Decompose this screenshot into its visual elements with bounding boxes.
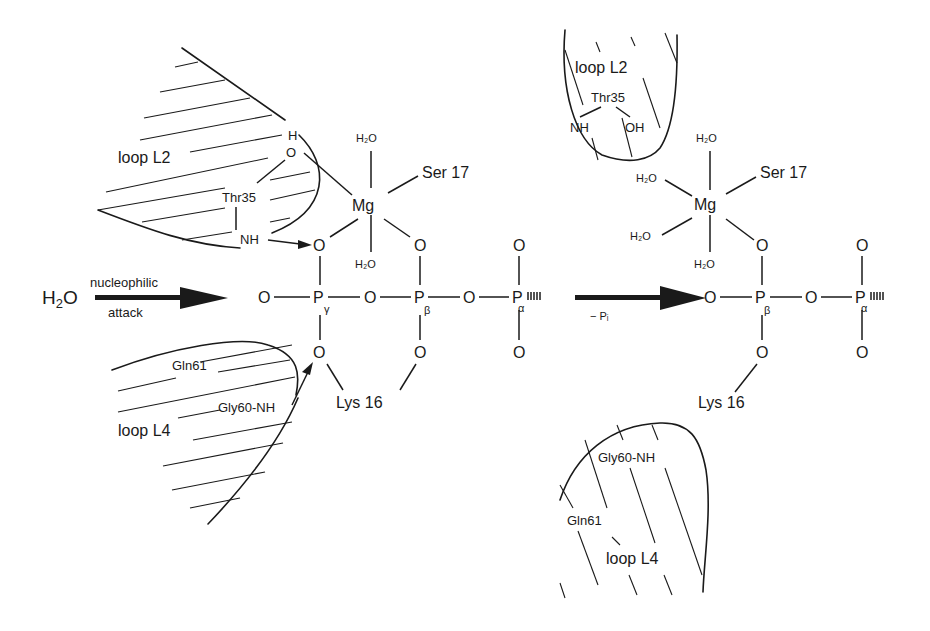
water-nucleophile: H2O	[42, 287, 78, 311]
arrow-label-top: nucleophilic	[90, 275, 158, 290]
right-diphosphate: O O O P β O P α O O Lys 16	[698, 237, 883, 411]
right-gly60-label: Gly60-NH	[598, 450, 655, 465]
right-water-left-bottom: H₂O	[630, 230, 651, 242]
right-o-beta-top: O	[756, 237, 768, 254]
gamma-label: γ	[324, 303, 330, 315]
o-alpha-top: O	[513, 237, 525, 254]
mg-label: Mg	[352, 197, 374, 214]
right-ser17-label: Ser 17	[760, 164, 807, 181]
beta-label: β	[424, 304, 430, 316]
right-thr35-label: Thr35	[591, 90, 625, 105]
p-gamma: P	[313, 289, 324, 306]
right-mg-label: Mg	[694, 196, 716, 213]
thr35-nh: NH	[240, 232, 259, 247]
thr35-h: H	[288, 128, 297, 143]
right-o-bridge: O	[805, 289, 817, 306]
right-mg-complex: H₂O H₂O H₂O H₂O Mg Ser 17	[630, 132, 807, 270]
o-beta-bottom: O	[414, 344, 426, 361]
right-beta-label: β	[764, 304, 770, 316]
right-o-beta-bottom: O	[756, 344, 768, 361]
o-alpha-bottom: O	[513, 344, 525, 361]
left-mg-complex: H₂O Mg Ser 17 H₂O	[304, 132, 469, 270]
thr35-label: Thr35	[222, 190, 256, 205]
right-o-terminal: O	[704, 289, 716, 306]
loop-l2-label: loop L2	[118, 149, 171, 166]
mechanism-diagram: loop L2 H O Thr35 NH H₂O Mg Ser 17 H₂O O…	[0, 0, 930, 631]
right-loop-l4: Gly60-NH Gln61 loop L4	[560, 423, 708, 598]
lys16-label: Lys 16	[336, 394, 383, 411]
right-loop-l2: loop L2 Thr35 NH OH	[564, 30, 677, 160]
o-bridge-2: O	[463, 289, 475, 306]
right-water-bottom: H₂O	[694, 258, 715, 270]
right-water-left-top: H₂O	[636, 172, 657, 184]
left-triphosphate: O O O O P γ O P β O P α O O O	[258, 237, 540, 411]
right-water-top: H₂O	[696, 132, 717, 144]
right-loop-l2-label: loop L2	[575, 59, 628, 76]
attack-arrow-head	[180, 287, 228, 309]
mg-water-bottom: H₂O	[355, 258, 376, 270]
thr35-o: O	[286, 145, 296, 160]
right-thr35-oh: OH	[625, 120, 645, 135]
gln61-label: Gln61	[172, 358, 207, 373]
right-o-alpha-top: O	[856, 237, 868, 254]
reaction-arrow: − Pᵢ	[575, 286, 706, 322]
o-terminal: O	[258, 289, 270, 306]
o-beta-top: O	[414, 237, 426, 254]
nucleophilic-attack: H2O nucleophilic attack	[42, 275, 228, 320]
left-loop-l2: loop L2 H O Thr35 NH	[98, 48, 320, 249]
o-gamma-bottom: O	[313, 344, 325, 361]
ser17-label: Ser 17	[422, 164, 469, 181]
right-o-alpha-bottom: O	[856, 344, 868, 361]
right-loop-l4-label: loop L4	[606, 550, 659, 567]
right-lys16-label: Lys 16	[698, 394, 745, 411]
pi-release-label: − Pᵢ	[590, 310, 609, 322]
loop-l4-label: loop L4	[118, 422, 171, 439]
o-bridge-1: O	[364, 289, 376, 306]
left-loop-l4: Gln61 Gly60-NH loop L4	[112, 342, 313, 524]
mg-water-top: H₂O	[356, 132, 377, 144]
gly60-label: Gly60-NH	[218, 400, 275, 415]
right-thr35-nh: NH	[570, 120, 589, 135]
o-gamma-top: O	[313, 237, 325, 254]
arrow-label-bottom: attack	[108, 305, 143, 320]
right-gln61-label: Gln61	[567, 513, 602, 528]
